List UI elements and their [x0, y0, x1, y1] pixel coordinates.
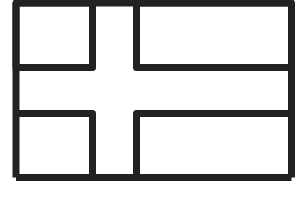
flag-outline-diagram	[0, 0, 302, 201]
bottom-left-panel	[16, 114, 93, 178]
bottom-right-panel	[137, 114, 292, 178]
top-left-panel	[16, 3, 93, 68]
top-right-panel	[137, 3, 292, 68]
flag-outline-icon	[0, 0, 302, 201]
